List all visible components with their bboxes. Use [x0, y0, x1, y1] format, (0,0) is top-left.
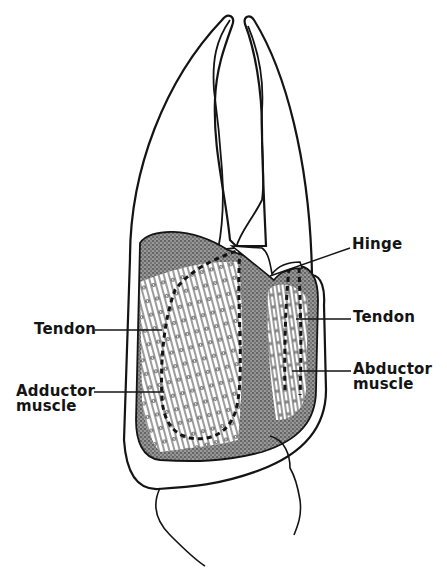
label-tendon-right: Tendon: [353, 310, 415, 325]
label-hinge: Hinge: [352, 237, 402, 252]
carpus-segment: [156, 488, 205, 566]
claw-diagram: [0, 0, 447, 581]
label-adductor-muscle: Adductor muscle: [16, 384, 95, 414]
label-tendon-left: Tendon: [34, 322, 96, 337]
abductor-tendon-outline-2: [299, 268, 301, 395]
adductor-muscle: [140, 262, 243, 452]
label-adductor-line2: muscle: [16, 399, 95, 414]
label-abductor-muscle: Abductor muscle: [353, 362, 432, 392]
label-abductor-line2: muscle: [353, 377, 432, 392]
